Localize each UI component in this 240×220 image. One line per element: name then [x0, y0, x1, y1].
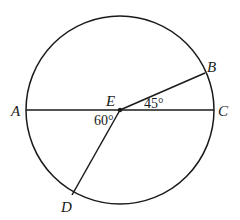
circle-diagram: A B C D E 45° 60° — [0, 0, 240, 220]
label-C: C — [218, 103, 229, 119]
label-A: A — [10, 103, 21, 119]
angle-label-AED: 60° — [94, 113, 114, 128]
label-D: D — [60, 199, 72, 215]
label-E: E — [105, 93, 115, 109]
angle-label-BEC: 45° — [144, 96, 164, 111]
center-point-E — [118, 108, 122, 112]
label-B: B — [207, 59, 216, 75]
